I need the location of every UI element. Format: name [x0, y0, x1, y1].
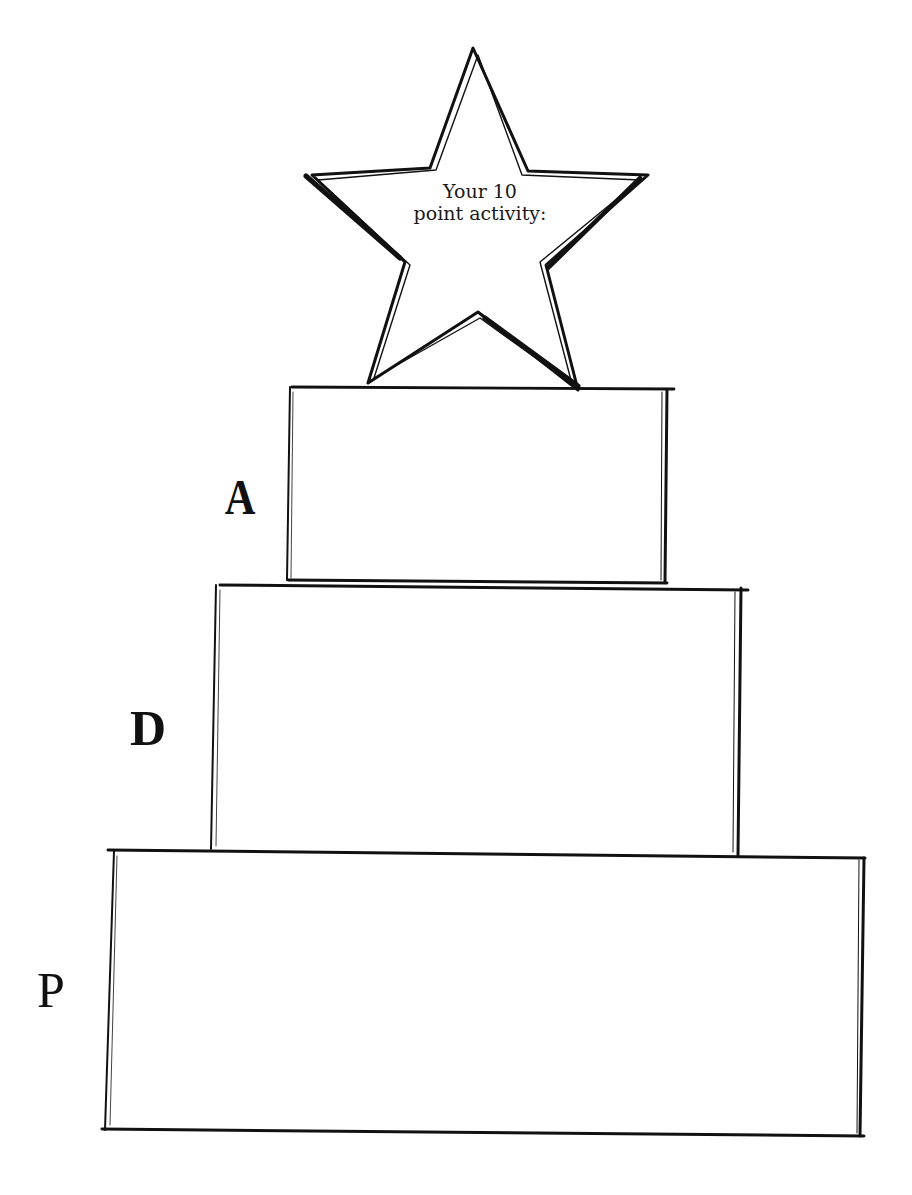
box-p-write-area[interactable]	[118, 860, 856, 1126]
level-label-a: A	[225, 472, 256, 522]
box-a-write-area[interactable]	[292, 392, 662, 578]
level-label-p: P	[37, 965, 65, 1015]
level-label-d: D	[130, 703, 166, 753]
box-d-write-area[interactable]	[220, 592, 734, 846]
star-label: Your 10 point activity:	[380, 180, 580, 224]
worksheet-page: Your 10 point activity: A D P	[0, 0, 912, 1195]
star-label-line-1: Your 10	[380, 180, 580, 202]
star-label-line-2: point activity:	[380, 202, 580, 224]
